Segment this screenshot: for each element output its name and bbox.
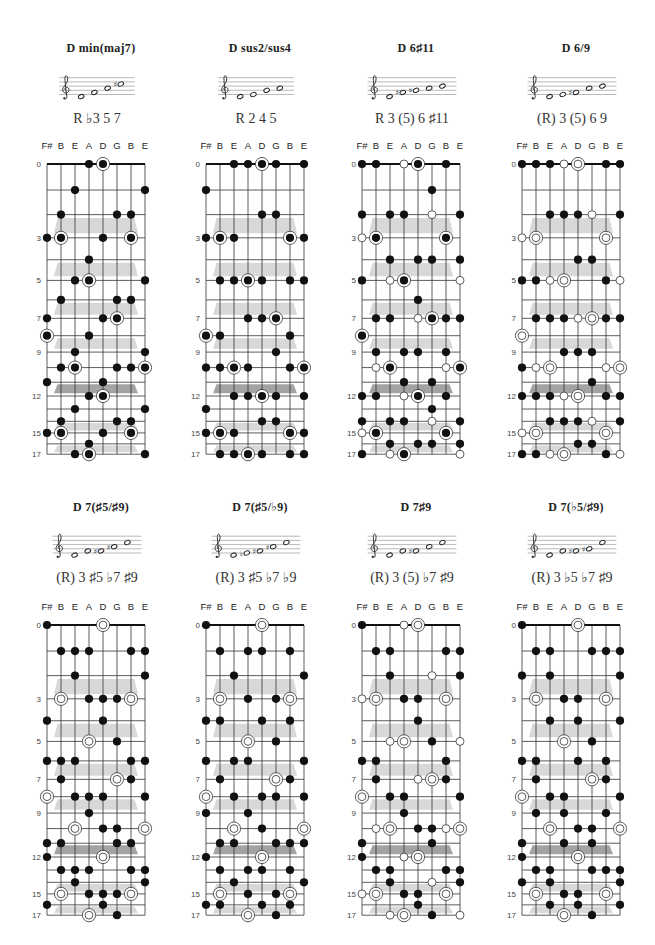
sharp-sign: ♯ (107, 543, 111, 552)
treble-clef-icon (531, 76, 537, 100)
chord-tone-dot (532, 866, 540, 874)
chord-tone-dot (428, 378, 436, 386)
optional-tone-circle (518, 429, 526, 437)
staff-notation: ♯ (528, 76, 617, 100)
chord-tone-dot (358, 450, 366, 458)
chord-tone-dot (43, 314, 51, 322)
optional-root-marker (383, 822, 396, 835)
string-name-label: A (401, 140, 408, 151)
chord-tone-dot (244, 809, 252, 817)
chord-diagram: ♭♯♯F#BEADGBE03579121517 D 7(♯5/♭9) (R) 3… (176, 461, 336, 931)
chord-tone-dot (85, 160, 93, 168)
chord-tone-dot (400, 417, 408, 425)
chord-tone-dot (588, 348, 596, 356)
root-marker (411, 389, 424, 402)
chord-tone-dot (258, 793, 266, 801)
chord-tone-dot (400, 348, 408, 356)
chord-tone-dot (230, 392, 238, 400)
chord-title: D min(maj7) (67, 41, 136, 55)
chord-tone-dot (372, 775, 380, 783)
fret-number-label: 17 (347, 450, 356, 459)
chord-tone-dot (442, 348, 450, 356)
string-name-label: G (113, 140, 120, 151)
chord-diagram: ♯F#BEADGBE03579121517 D 6/9 (R) 3 (5) 6 … (492, 0, 652, 470)
chord-tone-dot (602, 866, 610, 874)
chord-tone-dot (574, 256, 582, 264)
optional-root-marker (255, 618, 268, 631)
fret-inlay-band (369, 799, 453, 810)
string-name-label: B (128, 601, 134, 612)
chord-tone-dot (71, 878, 79, 886)
root-marker (213, 426, 226, 439)
string-name-label: D (575, 601, 582, 612)
chord-tone-dot (300, 793, 308, 801)
string-name-label: F# (200, 601, 212, 612)
fret-inlay-band (213, 263, 297, 276)
chord-tone-dot (400, 890, 408, 898)
chord-title: D 7(♯5/♯9) (73, 500, 129, 514)
chord-tone-dot (71, 866, 79, 874)
chord-tone-dot (518, 853, 526, 861)
string-name-label: G (428, 601, 435, 612)
string-name-label: D (100, 601, 107, 612)
chord-tone-dot (244, 160, 252, 168)
string-name-label: B (603, 140, 609, 151)
chord-tone-dot (71, 672, 79, 680)
chord-tone-dot (230, 429, 238, 437)
chord-tone-dot (202, 901, 210, 909)
chord-tone-dot (560, 809, 568, 817)
fret-inlay-band (54, 906, 138, 913)
string-name-label: G (428, 140, 435, 151)
treble-clef-icon (371, 534, 377, 558)
chord-tone-dot (202, 853, 210, 861)
chord-tone-dot (272, 348, 280, 356)
chord-tone-dot (57, 839, 65, 847)
fret-inlay-band (529, 724, 613, 737)
string-labels: F#BEADGBE (41, 140, 148, 151)
chord-tone-dot (230, 276, 238, 284)
fret-inlay-band (213, 799, 297, 810)
fret-inlay-band (369, 764, 453, 776)
chord-tone-dot (588, 737, 596, 745)
chord-tone-dot (300, 878, 308, 886)
chord-tone-dot (71, 348, 79, 356)
chord-tone-dot (532, 392, 540, 400)
fret-inlay-band (369, 445, 453, 452)
optional-root-marker (529, 887, 542, 900)
optional-root-marker (213, 887, 226, 900)
diagram-artwork: ♯F#BEADGBE03579121517 (17, 0, 177, 470)
chord-tone-dot (216, 450, 224, 458)
root-marker (439, 426, 452, 439)
chord-tone-dot (546, 793, 554, 801)
fret-number-label: 3 (352, 234, 357, 243)
chord-tone-dot (456, 417, 464, 425)
optional-tone-circle (400, 853, 408, 861)
string-name-label: F# (516, 140, 528, 151)
chord-tone-dot (202, 429, 210, 437)
treble-clef-icon (63, 76, 69, 100)
chord-chart-sheet: ♯F#BEADGBE03579121517 D min(maj7) R ♭3 5… (0, 0, 655, 945)
fret-number-label: 12 (347, 392, 356, 401)
chord-tone-dot (414, 695, 422, 703)
sharp-sign: ♯ (569, 88, 573, 97)
chord-tone-dot (386, 793, 394, 801)
chord-tone-dot (43, 234, 51, 242)
optional-root-marker (255, 850, 268, 863)
string-name-label: B (287, 601, 293, 612)
sharp-sign: ♯ (582, 545, 586, 554)
fret-number-label: 0 (352, 621, 357, 630)
chord-tone-dot (372, 866, 380, 874)
fret-number-label: 7 (37, 314, 42, 323)
chord-diagram: ♯♯F#BEADGBE03579121517 D 6♯11 R 3 (5) 6 … (332, 0, 492, 470)
fret-number-label: 15 (191, 890, 200, 899)
fret-number-label: 15 (507, 890, 516, 899)
optional-tone-circle (372, 825, 380, 833)
optional-root-marker (82, 735, 95, 748)
string-labels: F#BEADGBE (356, 601, 463, 612)
optional-tone-circle (358, 429, 366, 437)
chord-tone-dot (588, 440, 596, 448)
root-marker (54, 231, 67, 244)
chord-tone-dot (574, 348, 582, 356)
fret-number-label: 5 (352, 737, 357, 746)
fret-number-label: 15 (32, 429, 41, 438)
